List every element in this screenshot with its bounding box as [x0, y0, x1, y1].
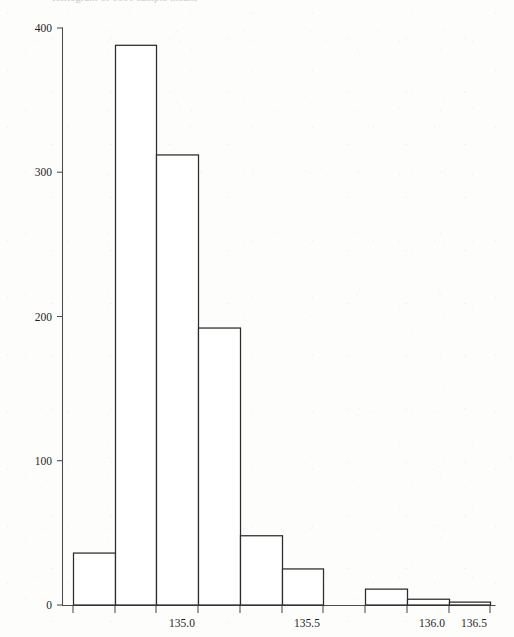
histogram-bar — [116, 45, 157, 605]
histogram-bar — [408, 599, 450, 605]
y-tick-label-0: 0 — [16, 599, 52, 611]
y-axis-ticks — [57, 28, 63, 605]
x-tick-label-135-5: 135.5 — [294, 617, 320, 629]
histogram-bar — [157, 155, 199, 605]
histogram-bar — [74, 553, 116, 605]
histogram-plot-area — [0, 0, 514, 637]
y-tick-label-200: 200 — [16, 311, 52, 323]
histogram-bar — [450, 602, 491, 605]
histogram-figure: Histogram of 1000 sample means — [0, 0, 514, 637]
histogram-bar — [199, 328, 241, 605]
y-tick-label-300: 300 — [16, 166, 52, 178]
x-axis-ticks — [73, 606, 490, 614]
histogram-bar — [283, 569, 324, 605]
histogram-bar — [366, 589, 408, 605]
y-tick-label-100: 100 — [16, 455, 52, 467]
histogram-bars — [74, 45, 491, 605]
x-tick-label-136-0: 136.0 — [419, 617, 445, 629]
y-tick-label-400: 400 — [16, 22, 52, 34]
x-tick-label-136-5: 136.5 — [461, 617, 487, 629]
histogram-bar — [241, 536, 283, 605]
x-tick-label-135-0: 135.0 — [169, 617, 195, 629]
